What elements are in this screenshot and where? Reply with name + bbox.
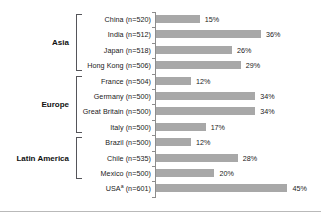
bar [156,30,261,38]
category-label: Japan (n=518) [104,44,151,57]
bar-value-label: 12% [196,136,210,149]
bar-value-label: 34% [260,105,274,118]
bar-row: Germany (n=500)34% [0,90,321,103]
bar-row: Great Britain (n=500)34% [0,105,321,118]
bar [156,154,238,162]
bar-row: Italy (n=500)17% [0,121,321,134]
bar [156,61,241,69]
bar-row: Brazil (n=500)12% [0,136,321,149]
bar-value-label: 29% [246,59,260,72]
bar-row: Japan (n=518)26% [0,44,321,57]
axis-tick [152,197,156,198]
bar-row: Chile (n=535)28% [0,152,321,165]
bar [156,123,206,131]
bar-value-label: 17% [211,121,225,134]
bar-row: Mexico (n=500)20% [0,167,321,180]
bar-value-label: 28% [243,152,257,165]
category-label: India (n=512) [108,28,151,41]
category-label: France (n=504) [101,75,151,88]
bar-row: India (n=512)36% [0,28,321,41]
category-label: Brazil (n=500) [105,136,151,149]
bar [156,46,232,54]
bar [156,184,287,192]
chart-figure: AsiaEuropeLatin America China (n=520)15%… [0,0,321,217]
category-label: Hong Kong (n=506) [87,59,151,72]
bar-value-label: 36% [266,28,280,41]
category-label: Germany (n=500) [94,90,151,103]
category-label: USAa (n=601) [106,182,151,195]
bar-value-label: 12% [196,75,210,88]
bar-row: Hong Kong (n=506)29% [0,59,321,72]
figure-bottom-rule [0,211,321,212]
bar-value-label: 26% [237,44,251,57]
bar-row: USAa (n=601)45% [0,182,321,195]
bar [156,15,200,23]
category-label: Italy (n=500) [110,121,151,134]
category-label: China (n=520) [105,13,151,26]
category-label: Mexico (n=500) [101,167,151,180]
bar [156,138,191,146]
bar [156,77,191,85]
category-label: Chile (n=535) [107,152,151,165]
footnote-marker: a [121,183,124,189]
bar [156,169,214,177]
category-label: Great Britain (n=500) [83,105,151,118]
bar [156,92,255,100]
bar-value-label: 15% [205,13,219,26]
bar-value-label: 45% [292,182,306,195]
bar-chart-plot: AsiaEuropeLatin America China (n=520)15%… [0,0,321,205]
bar [156,107,255,115]
bar-value-label: 20% [219,167,233,180]
bar-row: China (n=520)15% [0,13,321,26]
bar-row: France (n=504)12% [0,75,321,88]
bar-value-label: 34% [260,90,274,103]
